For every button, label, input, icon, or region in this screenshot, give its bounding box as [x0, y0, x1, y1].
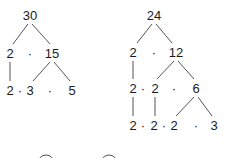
tree-edge	[157, 61, 174, 79]
factor-node: 2	[170, 119, 177, 132]
factor-node: 15	[45, 47, 59, 60]
partial-circle-2	[101, 155, 117, 158]
multiply-dot: ·	[141, 119, 145, 132]
factor-node: 2	[129, 46, 136, 59]
multiply-dot: ·	[48, 84, 52, 97]
tree-edge	[13, 24, 28, 44]
factor-node: 2	[151, 82, 158, 95]
tree-edge	[32, 24, 50, 44]
tree-edge	[178, 61, 194, 79]
multiply-dot: ·	[18, 84, 22, 97]
factor-node: 24	[147, 9, 161, 22]
multiply-dot: ·	[162, 119, 166, 132]
factor-node: 3	[210, 119, 217, 132]
factor-node: 12	[169, 46, 183, 59]
factor-node: 2	[6, 84, 13, 97]
factor-node: 30	[23, 9, 37, 22]
factor-node: 2	[129, 119, 136, 132]
multiply-dot: ·	[194, 119, 198, 132]
factor-node: 2	[150, 119, 157, 132]
factor-node: 6	[192, 82, 199, 95]
tree-edge	[137, 24, 152, 43]
factor-node: 5	[68, 84, 75, 97]
tree-edge	[198, 97, 212, 116]
tree-lines	[0, 0, 248, 158]
tree-edge	[33, 62, 50, 81]
multiply-dot: ·	[141, 82, 145, 95]
tree-edge	[54, 62, 70, 81]
factor-node: 2	[6, 47, 13, 60]
tree-edge	[176, 97, 194, 116]
multiply-dot: ·	[28, 47, 32, 60]
multiply-dot: ·	[172, 82, 176, 95]
partial-circle-1	[38, 155, 54, 158]
factor-node: 3	[26, 84, 33, 97]
tree-edge	[156, 24, 172, 43]
multiply-dot: ·	[152, 46, 156, 59]
factor-node: 2	[129, 82, 136, 95]
